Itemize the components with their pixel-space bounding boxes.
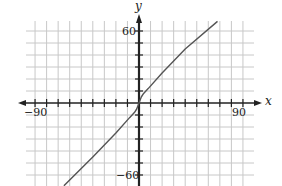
x-min-label: −90 (24, 107, 47, 118)
x-max-label: 90 (232, 107, 246, 118)
y-min-label: −60 (116, 170, 139, 181)
x-axis-label: x (265, 95, 272, 107)
coordinate-plane (0, 0, 282, 186)
y-axis-label: y (135, 0, 142, 12)
y-max-label: 60 (122, 26, 136, 37)
